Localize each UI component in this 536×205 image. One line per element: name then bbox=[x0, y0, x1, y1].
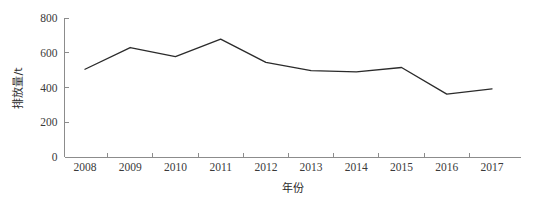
y-tick-label: 400 bbox=[40, 82, 58, 94]
x-tick-label: 2017 bbox=[481, 161, 504, 173]
x-tick-label: 2016 bbox=[435, 161, 458, 173]
y-tick-label: 800 bbox=[40, 12, 58, 24]
x-tick-label: 2015 bbox=[390, 161, 413, 173]
emissions-series-line bbox=[85, 39, 492, 94]
chart-canvas: 0200400600800 20082009201020112012201320… bbox=[0, 0, 536, 205]
x-tick-label: 2012 bbox=[254, 161, 277, 173]
x-axis-title: 年份 bbox=[282, 181, 304, 195]
y-axis-ticks bbox=[65, 18, 69, 157]
x-axis-tick-labels: 2008200920102011201220132014201520162017 bbox=[74, 161, 504, 173]
y-tick-label: 600 bbox=[40, 47, 58, 59]
emissions-line-chart: 0200400600800 20082009201020112012201320… bbox=[0, 0, 536, 205]
x-tick-label: 2011 bbox=[209, 161, 232, 173]
x-axis: 2008200920102011201220132014201520162017 bbox=[65, 153, 522, 173]
y-axis: 0200400600800 bbox=[40, 12, 68, 163]
y-tick-label: 200 bbox=[40, 116, 58, 128]
x-axis-ticks bbox=[108, 153, 470, 157]
x-tick-label: 2008 bbox=[74, 161, 97, 173]
y-axis-tick-labels: 0200400600800 bbox=[40, 12, 58, 163]
y-tick-label: 0 bbox=[52, 151, 58, 163]
x-tick-label: 2013 bbox=[300, 161, 323, 173]
x-tick-label: 2009 bbox=[119, 161, 142, 173]
x-tick-label: 2014 bbox=[345, 161, 368, 173]
x-tick-label: 2010 bbox=[164, 161, 187, 173]
y-axis-title: 排放量/t bbox=[11, 67, 25, 109]
